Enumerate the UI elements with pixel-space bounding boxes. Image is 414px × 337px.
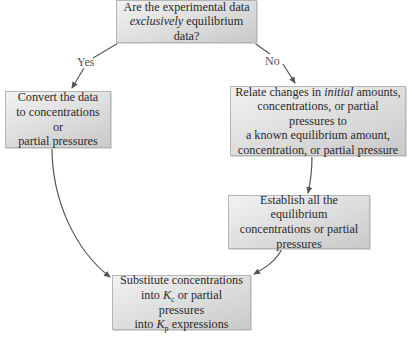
convert-data-box: Convert the data to concentrations or pa… — [5, 91, 111, 148]
relate-changes-box: Relate changes in initial amounts, conce… — [230, 86, 406, 156]
kc-symbol: K — [163, 288, 171, 302]
arrow-yes — [93, 42, 120, 58]
relate-line4: concentration, or partial pressure — [238, 143, 398, 157]
relate-initial: initial — [324, 85, 353, 99]
arrow-no — [253, 42, 270, 54]
question-line2: equilibrium data? — [174, 14, 244, 43]
no-label: No — [265, 54, 280, 69]
arrow-establish-to-substitute — [254, 249, 282, 274]
establish-line3: pressures — [276, 237, 321, 251]
relate-line1-post: amounts, — [353, 85, 400, 99]
arrow-relate-to-establish — [308, 156, 312, 193]
convert-line2: to concentrations or — [16, 105, 100, 134]
establish-line1: Establish all the equilibrium — [260, 193, 338, 222]
substitute-line1: Substitute concentrations — [120, 273, 243, 287]
relate-line2: concentrations, or partial pressures to — [257, 99, 379, 128]
establish-equilibrium-box: Establish all the equilibrium concentrat… — [228, 195, 370, 249]
question-box: Are the experimental data exclusively eq… — [116, 0, 257, 43]
arrow-convert-to-substitute — [52, 148, 110, 277]
question-exclusively: exclusively — [130, 14, 183, 28]
question-line1: Are the experimental data — [123, 0, 249, 14]
yes-label: Yes — [77, 55, 94, 70]
relate-line3: a known equilibrium amount, — [246, 128, 390, 142]
establish-line2: concentrations or partial — [240, 222, 358, 236]
convert-line1: Convert the data — [18, 90, 99, 104]
substitute-box: Substitute concentrations into Kc or par… — [112, 275, 251, 330]
kp-symbol: K — [156, 317, 164, 331]
substitute-line2-pre: into — [141, 288, 163, 302]
substitute-line3-pre: into — [134, 317, 156, 331]
convert-line3: partial pressures — [18, 134, 98, 148]
substitute-line3-post: expressions — [169, 317, 229, 331]
relate-line1-pre: Relate changes in — [235, 85, 324, 99]
